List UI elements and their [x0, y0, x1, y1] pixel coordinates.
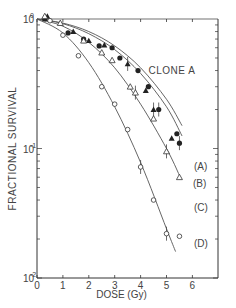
series-label: (D) [194, 238, 208, 249]
marker-filled-circle [65, 30, 70, 35]
marker-open-circle [138, 165, 143, 170]
series-label: (C) [194, 202, 208, 213]
marker-filled-circle [117, 55, 122, 60]
marker-open-circle [99, 84, 104, 89]
marker-open-circle [112, 102, 117, 107]
x-tick-label: 0 [34, 280, 40, 291]
marker-open-triangle [176, 174, 182, 179]
marker-filled-circle [177, 141, 182, 146]
marker-filled-triangle [125, 61, 131, 66]
marker-filled-circle [174, 131, 179, 136]
marker-filled-circle [110, 45, 115, 50]
marker-filled-triangle [70, 29, 76, 34]
marker-filled-triangle [151, 107, 157, 112]
marker-open-circle [61, 33, 66, 38]
y-tick-exponent: 0 [30, 12, 34, 19]
marker-open-circle [177, 234, 182, 239]
marker-open-circle [48, 18, 53, 23]
marker-open-circle [125, 127, 130, 132]
x-tick-label: 1 [60, 280, 66, 291]
marker-filled-circle [135, 68, 140, 73]
chart-title: CLONE A [149, 65, 196, 76]
fit-curve-d [37, 19, 176, 252]
x-axis-label: DOSE (Gy) [96, 289, 147, 300]
marker-open-circle [151, 198, 156, 203]
marker-open-circle [76, 53, 81, 58]
marker-open-circle [164, 231, 169, 236]
marker-open-triangle [109, 57, 115, 62]
fit-curve-c [37, 19, 179, 175]
marker-filled-circle [146, 84, 151, 89]
x-tick-label: 6 [190, 280, 196, 291]
marker-filled-circle [97, 43, 102, 48]
y-tick-exponent: -2 [30, 271, 36, 278]
y-tick-exponent: -1 [30, 142, 36, 149]
y-axis-label: FRACTIONAL SURVIVAL [7, 87, 18, 211]
fit-curves [37, 19, 182, 252]
survival-chart: 012345610010-110-2DOSE (Gy)FRACTIONAL SU… [0, 0, 236, 308]
series-label: (B) [193, 178, 206, 189]
marker-open-triangle [164, 148, 170, 153]
marker-open-triangle [127, 84, 133, 89]
marker-filled-triangle [101, 42, 107, 47]
x-tick-label: 5 [164, 280, 170, 291]
series-label: (A) [194, 161, 207, 172]
marker-filled-circle [156, 107, 161, 112]
marker-filled-triangle [169, 135, 175, 140]
marker-open-triangle [151, 116, 157, 121]
data-points [42, 13, 183, 240]
fit-curve-b [37, 19, 182, 136]
x-tick-label: 2 [86, 280, 92, 291]
